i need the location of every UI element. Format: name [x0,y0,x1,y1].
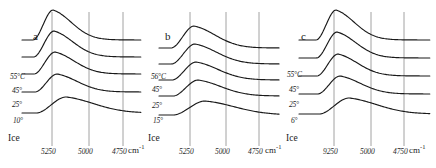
spectrum-curve [299,10,430,40]
temperature-label: 45° [289,85,299,94]
spectrum-curve [299,98,430,114]
temperature-label: 55°C [287,70,302,79]
spectra-figure: a55°C45°25°10°Ice525050004750cm-1b56°C45… [0,0,436,168]
spectrum-curve [299,32,430,58]
axis-unit-exponent: -1 [420,143,425,150]
axis-unit-text: cm [409,145,420,155]
panel-c-plot [0,0,436,168]
spectrum-curve [299,76,430,94]
x-tick-label: 4750 [393,147,408,156]
panel-c: c55°C45°25°6°Ice925050004750cm-1 [0,0,436,168]
x-tick-label: 9250 [323,147,338,156]
temperature-label: 25° [289,100,299,109]
ice-label: Ice [286,133,298,143]
panel-letter-c: c [301,30,306,42]
axis-unit-label: cm-1 [409,145,425,155]
x-tick-label: 5000 [360,147,375,156]
temperature-label: 6° [291,116,297,125]
